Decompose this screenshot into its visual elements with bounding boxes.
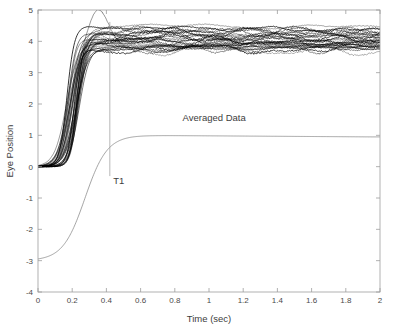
x-tick-label: 0.6	[135, 296, 147, 305]
x-tick-label: 0.4	[101, 296, 113, 305]
y-tick-label: 2	[29, 100, 34, 109]
y-tick-label: 3	[29, 69, 34, 78]
eye-position-chart: 00.20.40.60.811.21.41.61.82-4-3-2-101234…	[0, 0, 394, 329]
y-tick-label: -2	[26, 225, 34, 234]
y-tick-label: 0	[29, 163, 34, 172]
y-axis-title: Eye Position	[4, 125, 15, 178]
averaged-data-label: Averaged Data	[183, 112, 247, 123]
x-tick-label: 1.2	[238, 296, 250, 305]
y-tick-label: -1	[26, 194, 34, 203]
x-tick-label: 2	[378, 296, 383, 305]
x-tick-label: 1.8	[340, 296, 352, 305]
t1-marker-label: T1	[113, 175, 124, 186]
y-tick-label: -4	[26, 288, 34, 297]
y-tick-label: -3	[26, 257, 34, 266]
x-tick-label: 0.2	[67, 296, 79, 305]
y-tick-label: 5	[29, 6, 34, 15]
x-tick-label: 1	[207, 296, 212, 305]
x-tick-label: 0.8	[169, 296, 181, 305]
y-tick-label: 4	[29, 37, 34, 46]
x-tick-label: 0	[36, 296, 41, 305]
x-tick-label: 1.4	[272, 296, 284, 305]
x-tick-label: 1.6	[306, 296, 318, 305]
x-axis-title: Time (sec)	[187, 313, 232, 324]
eye-position-figure: 00.20.40.60.811.21.41.61.82-4-3-2-101234…	[0, 0, 394, 329]
y-tick-label: 1	[29, 131, 34, 140]
